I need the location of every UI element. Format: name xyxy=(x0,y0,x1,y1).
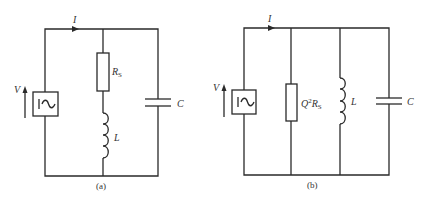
circuit-diagram-b: I V Q2RS L C (b) xyxy=(213,13,414,190)
inductor-b xyxy=(340,78,345,124)
wire-left-bottom-a xyxy=(45,106,158,176)
inductor-label-a: L xyxy=(113,132,120,143)
resistor-label-a: RS xyxy=(111,66,122,79)
circuit-diagram-a: I V RS L C (a) xyxy=(14,14,184,191)
inductor-label-b: L xyxy=(350,96,357,107)
caption-b: (b) xyxy=(307,180,318,190)
resistor-q2rs-b xyxy=(286,84,297,121)
current-arrow-icon xyxy=(72,26,79,32)
voltage-label-a: V xyxy=(14,84,22,95)
current-label-a: I xyxy=(72,14,77,25)
capacitor-label-b: C xyxy=(407,96,414,107)
wire-left-top-b xyxy=(244,28,389,98)
voltage-arrow-icon xyxy=(23,86,28,93)
current-arrow-icon xyxy=(268,25,275,31)
ac-source-b xyxy=(232,90,256,114)
caption-a: (a) xyxy=(96,181,106,191)
circuit-figure: I V RS L C (a) I xyxy=(0,0,423,203)
resistor-rs-a xyxy=(97,53,109,91)
wire-left-bottom-b xyxy=(244,104,389,175)
capacitor-label-a: C xyxy=(177,98,184,109)
resistor-label-b: Q2RS xyxy=(301,97,322,111)
inductor-a xyxy=(103,113,108,158)
voltage-label-b: V xyxy=(213,82,221,93)
current-label-b: I xyxy=(267,13,272,24)
ac-source-a xyxy=(33,92,58,116)
voltage-arrow-icon xyxy=(222,84,227,91)
